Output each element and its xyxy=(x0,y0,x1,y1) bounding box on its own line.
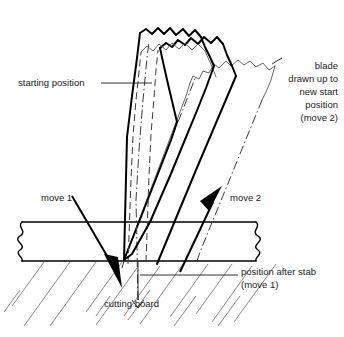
blade-drawn-up-line-4: position xyxy=(305,99,338,110)
label-position-after-stab: position after stab (move 1) xyxy=(241,266,316,290)
technical-diagram: starting position blade drawn up to new … xyxy=(0,0,344,337)
move-2-label: move 2 xyxy=(230,192,261,203)
label-cutting-board: cutting board xyxy=(104,298,159,309)
label-blade-drawn-up: blade drawn up to new start position (mo… xyxy=(288,60,338,123)
position-after-stab-line-1: position after stab xyxy=(241,266,316,277)
starting-position-label: starting position xyxy=(18,77,85,88)
leader-lines xyxy=(101,58,282,275)
move-2-arrow xyxy=(180,186,222,272)
cutting-board-label: cutting board xyxy=(104,298,159,309)
move-1-label: move 1 xyxy=(41,192,72,203)
blade-drawn-up-line-1: blade xyxy=(315,60,338,71)
label-move-2: move 2 xyxy=(230,192,261,203)
move-1-arrow xyxy=(72,196,122,288)
diagram-canvas: starting position blade drawn up to new … xyxy=(0,0,344,337)
blade-drawn-up-line-3: new start xyxy=(299,86,338,97)
blade-drawn-up-line-2: drawn up to xyxy=(288,73,338,84)
label-move-1: move 1 xyxy=(41,192,72,203)
blade-drawn-up-line-5: (move 2) xyxy=(301,112,338,123)
material-hatching xyxy=(4,262,276,326)
position-after-stab-line-2: (move 1) xyxy=(241,279,278,290)
label-starting-position: starting position xyxy=(18,77,85,88)
